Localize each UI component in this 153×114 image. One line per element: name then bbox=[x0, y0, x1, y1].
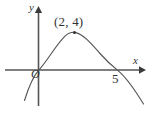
vertex-point-marker bbox=[73, 31, 76, 34]
y-axis-label: y bbox=[29, 2, 34, 13]
x-intercept-label: 5 bbox=[112, 72, 119, 85]
vertex-coordinate-label: (2, 4) bbox=[54, 15, 83, 28]
parabola-curve bbox=[25, 32, 144, 104]
x-axis-arrowhead bbox=[139, 66, 146, 74]
parabola-figure: y x (2, 4) O 5 bbox=[0, 0, 153, 114]
x-axis-label: x bbox=[133, 55, 138, 66]
y-axis-arrowhead bbox=[35, 6, 42, 13]
origin-label: O bbox=[31, 68, 40, 80]
